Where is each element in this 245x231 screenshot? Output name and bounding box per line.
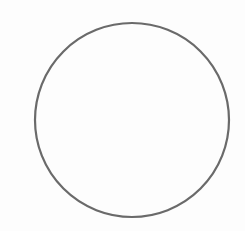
circle-diagram (0, 0, 245, 231)
diagram-canvas (0, 0, 245, 231)
circle-outline (35, 23, 229, 217)
